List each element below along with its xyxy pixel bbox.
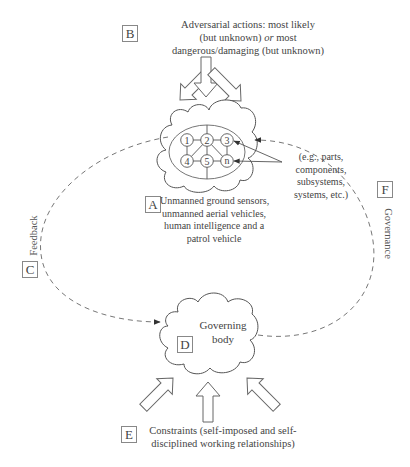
node-1: 1 <box>181 134 194 147</box>
arrow-up-icon <box>196 382 220 422</box>
adversarial-or: or <box>264 32 273 43</box>
node-n: n <box>221 155 234 168</box>
adversarial-arrows <box>172 57 249 109</box>
label-a: A <box>145 196 161 213</box>
node-4: 4 <box>181 155 194 168</box>
adversarial-line-2: (but unknown) or most <box>148 31 348 44</box>
svg-text:1: 1 <box>185 135 190 146</box>
svg-text:4: 4 <box>185 156 190 167</box>
callout-line-1: (e.g., parts, <box>281 151 361 164</box>
label-c: C <box>22 261 38 278</box>
governing-line-1: Governing <box>188 318 258 332</box>
constraint-arrows <box>136 370 285 422</box>
callout-line-2: components, <box>281 164 361 177</box>
node-3: 3 <box>221 134 234 147</box>
svg-text:3: 3 <box>225 135 230 146</box>
label-f: F <box>377 181 393 198</box>
constraints-line-2: disciplined working relationships) <box>138 437 308 450</box>
callout-text: (e.g., parts, components, subsystems, sy… <box>281 151 361 201</box>
constraints-text: Constraints (self-imposed and self- disc… <box>138 424 308 450</box>
svg-text:2: 2 <box>205 135 210 146</box>
svg-text:5: 5 <box>205 156 210 167</box>
svg-text:n: n <box>225 155 230 166</box>
node-2: 2 <box>201 134 214 147</box>
system-line-2: unmanned aerial vehicles, <box>160 208 268 221</box>
callout-line-3: subsystems, <box>281 176 361 189</box>
arrow-up-left-icon <box>239 370 284 415</box>
system-description: Unmanned ground sensors, unmanned aerial… <box>160 195 268 245</box>
system-line-3: human intelligence and a <box>160 220 268 233</box>
feedback-label: Feedback <box>28 211 39 261</box>
system-line-4: patrol vehicle <box>160 233 268 246</box>
governing-line-2: body <box>188 332 258 346</box>
adversarial-line-1: Adversarial actions: most likely <box>148 18 348 31</box>
label-e: E <box>121 426 137 443</box>
label-b: B <box>122 25 138 42</box>
callout-line-4: systems, etc.) <box>281 189 361 202</box>
constraints-line-1: Constraints (self-imposed and self- <box>138 424 308 437</box>
adversarial-actions-text: Adversarial actions: most likely (but un… <box>148 18 348 57</box>
system-line-1: Unmanned ground sensors, <box>160 195 268 208</box>
feedback-loop <box>40 137 168 322</box>
governance-label: Governance <box>383 203 394 265</box>
arrow-up-right-icon <box>136 370 181 415</box>
node-5: 5 <box>201 155 214 168</box>
governing-body-text: Governing body <box>188 318 258 346</box>
adversarial-line-3: dangerous/damaging (but unknown) <box>148 44 348 57</box>
